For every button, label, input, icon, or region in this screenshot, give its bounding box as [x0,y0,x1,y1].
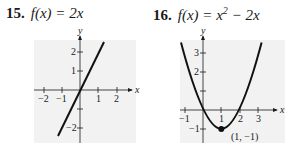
vertex-label: (1, −1) [231,131,258,143]
plot-background [34,40,136,143]
x-tick-label: 3 [256,113,261,124]
plot-16: −1 1 2 3 3 2 −1 x y (1, −1) [179,25,285,143]
y-axis-label: y [77,25,83,36]
y-tick-label: 2 [194,66,199,77]
y-tick-label: −2 [66,122,77,133]
vertex-point [218,126,224,132]
x-tick-label: −2 [38,93,49,104]
graphs: −2 −1 1 2 2 1 −2 x y −1 1 2 3 3 2 [0,0,291,149]
y-tick-label: 3 [194,47,199,58]
y-tick-label: 2 [71,46,76,57]
x-tick-label: −1 [56,93,67,104]
x-tick-label: 1 [219,113,224,124]
y-axis-label: y [200,25,206,36]
plot-15: −2 −1 1 2 2 1 −2 x y [34,25,140,143]
y-tick-label: −1 [189,123,200,134]
x-tick-label: 1 [96,93,101,104]
x-tick-label: 2 [114,93,119,104]
y-tick-label: 1 [71,65,76,76]
x-axis-label: x [279,104,285,115]
x-axis-label: x [134,84,140,95]
x-tick-label: 2 [238,113,243,124]
